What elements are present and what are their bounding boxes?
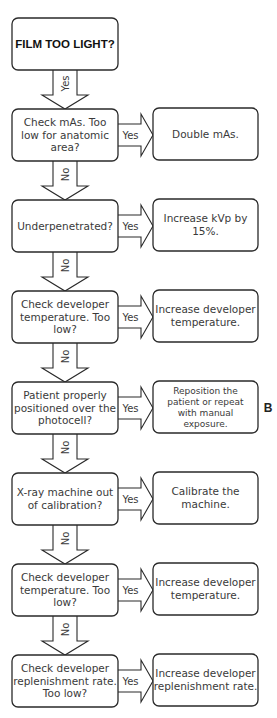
action-text-line: Double mAs. [172, 128, 239, 140]
question-text: Underpenetrated? [17, 220, 113, 232]
no-arrow: No [42, 343, 88, 382]
start-yes-arrow: Yes [42, 70, 88, 109]
question-text-line: temperature. Too [20, 584, 110, 596]
no-arrow: No [42, 252, 88, 291]
question-text-line: of calibration? [28, 499, 103, 511]
arrow-label: No [60, 623, 71, 637]
no-arrow: No [42, 161, 88, 200]
action-text-line: temperature. [171, 589, 240, 601]
action-text-line: exposure. [183, 419, 227, 429]
yes-arrow: Yes [118, 205, 153, 247]
arrow-label: Yes [121, 221, 138, 232]
arrow-label: Yes [121, 403, 138, 414]
question-text-line: replenishment rate. [13, 675, 117, 687]
action-text-line: Increase developer [155, 667, 256, 679]
question-text-line: temperature. Too [20, 311, 110, 323]
arrow-label: Yes [121, 312, 138, 323]
yes-arrow: Yes [118, 660, 153, 702]
arrow-label: No [60, 350, 71, 364]
arrow-label: Yes [121, 130, 138, 141]
action-text-line: Increase kVp by [164, 212, 248, 224]
question-text-line: photocell? [38, 414, 92, 426]
arrow-label: Yes [121, 676, 138, 687]
question-text-line: positioned over the [14, 402, 116, 414]
no-arrow: No [42, 525, 88, 564]
question-text-line: Check mAs. Too [24, 116, 107, 128]
arrow-label: No [60, 168, 71, 182]
question-text: X-ray machine outof calibration? [17, 486, 113, 511]
action-text: Double mAs. [172, 128, 239, 140]
no-arrow: No [42, 616, 88, 655]
yes-arrow: Yes [118, 114, 153, 156]
action-text-line: Calibrate the [171, 485, 239, 497]
arrow-label: No [60, 532, 71, 546]
action-text-line: Increase developer [155, 576, 256, 588]
question-text-line: low? [53, 323, 77, 335]
question-text-line: Patient properly [23, 389, 107, 401]
question-text-line: Check developer [21, 662, 110, 674]
boxes-layer: FILM TOO LIGHT?Check mAs. Toolow for ana… [12, 18, 258, 707]
arrow-label: Yes [121, 585, 138, 596]
flowchart: YesYesNoYesNoYesNoYesNoYesNoYesNoYes FIL… [0, 0, 277, 718]
action-text-line: machine. [181, 498, 229, 510]
yes-arrow: Yes [118, 569, 153, 611]
arrow-label: Yes [60, 75, 71, 92]
panel-letter: B [264, 401, 273, 415]
question-text-line: X-ray machine out [17, 486, 113, 498]
action-text-line: Increase developer [155, 303, 256, 315]
start-box-label: FILM TOO LIGHT? [15, 38, 114, 50]
action-text-line: 15%. [192, 225, 219, 237]
action-text: Increase developerreplenishment rate. [154, 667, 258, 692]
question-text-line: Underpenetrated? [17, 220, 113, 232]
question-text-line: low? [53, 596, 77, 608]
no-arrow: No [42, 434, 88, 473]
action-text-line: temperature. [171, 316, 240, 328]
action-text-line: replenishment rate. [154, 680, 258, 692]
question-text-line: area? [51, 141, 80, 153]
arrow-label: No [60, 259, 71, 273]
question-text-line: Check developer [21, 571, 110, 583]
action-text: Calibrate themachine. [171, 485, 239, 510]
action-text-line: with manual [178, 408, 234, 418]
question-text-line: Check developer [21, 298, 110, 310]
arrow-label: Yes [121, 494, 138, 505]
action-text-line: patient or repeat [167, 397, 244, 407]
yes-arrow: Yes [118, 387, 153, 429]
yes-arrow: Yes [118, 296, 153, 338]
arrow-label: No [60, 441, 71, 455]
question-text-line: low for anatomic [21, 129, 109, 141]
question-text-line: Too low? [42, 687, 87, 699]
yes-arrow: Yes [118, 478, 153, 520]
action-text-line: Reposition the [173, 386, 238, 396]
